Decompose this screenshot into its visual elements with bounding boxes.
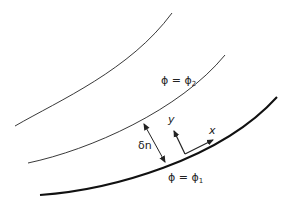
phi1-label: ϕ = ϕ1	[168, 172, 203, 185]
phi1-label-lhs: ϕ = ϕ	[168, 171, 199, 184]
delta-n-text: δn	[138, 139, 152, 152]
streamline-upper	[15, 13, 172, 126]
phi2-label-lhs: ϕ = ϕ	[161, 74, 192, 87]
y-axis-arrow	[174, 131, 185, 154]
y-axis-label: y	[168, 114, 175, 125]
streamline-phi1	[40, 97, 277, 195]
x-axis-label: x	[209, 125, 216, 136]
phi2-label: ϕ = ϕ2	[161, 75, 196, 88]
x-axis-text: x	[209, 124, 216, 137]
phi1-label-sub: 1	[199, 177, 203, 185]
streamline-phi2	[28, 55, 225, 163]
phi2-label-sub: 2	[192, 80, 196, 88]
delta-n-label: δn	[138, 140, 152, 151]
diagram-canvas	[0, 0, 289, 201]
y-axis-text: y	[168, 113, 175, 126]
